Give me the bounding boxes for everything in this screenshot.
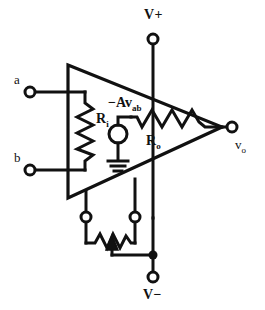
label-dependent-source: −Avab <box>108 96 142 113</box>
label-input-b: b <box>14 151 21 164</box>
potentiometer-terminal-left-node[interactable] <box>81 212 91 222</box>
output-resistance-Ro-symbol <box>131 110 222 127</box>
label-output-resistance-subscript: o <box>156 141 161 151</box>
label-dependent-source-subscript: ab <box>132 103 142 113</box>
label-input-resistance-subscript: i <box>106 119 109 129</box>
label-supply-positive: V+ <box>144 8 163 22</box>
label-input-resistance-base: R <box>96 111 106 126</box>
label-output-node-subscript: o <box>242 145 247 155</box>
terminal-a-node[interactable] <box>25 87 35 97</box>
negative-rail-junction-dot <box>149 251 158 260</box>
label-output-resistance: Ro <box>146 134 161 151</box>
input-resistance-Ri-symbol <box>77 92 93 170</box>
label-dependent-source-base: −Av <box>108 95 132 110</box>
terminal-b-node[interactable] <box>25 165 35 175</box>
label-output-resistance-base: R <box>146 133 156 148</box>
terminal-v-output-node[interactable] <box>227 122 237 132</box>
label-input-a: a <box>14 73 20 86</box>
terminal-v-positive-node[interactable] <box>148 34 158 44</box>
label-input-resistance: Ri <box>96 112 109 129</box>
op-amp-triangle-outline <box>68 65 222 198</box>
circuit-diagram-figure: a b Ri −Avab Ro vo V+ V− <box>0 0 265 310</box>
potentiometer-terminal-right-node[interactable] <box>130 212 140 222</box>
dependent-source-circle <box>109 125 127 143</box>
circuit-schematic-canvas <box>0 0 265 310</box>
terminal-v-negative-node[interactable] <box>148 272 158 282</box>
label-output-node: vo <box>235 138 246 155</box>
label-supply-negative: V− <box>143 288 162 302</box>
